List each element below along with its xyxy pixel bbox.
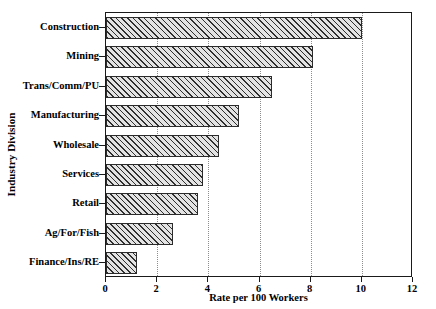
category-label: Finance/Ins/RE bbox=[29, 251, 99, 273]
category-label: Wholesale bbox=[53, 134, 99, 156]
bar bbox=[106, 193, 198, 215]
x-tick bbox=[259, 277, 260, 282]
bar-row bbox=[106, 76, 272, 98]
x-axis-title: Rate per 100 Workers bbox=[105, 292, 412, 303]
bar bbox=[106, 135, 219, 157]
bar-row bbox=[106, 105, 239, 127]
bar bbox=[106, 46, 313, 68]
category-label: Construction bbox=[40, 16, 99, 38]
bar-row bbox=[106, 17, 362, 39]
bar bbox=[106, 17, 362, 39]
x-tick bbox=[361, 277, 362, 282]
category-label: Trans/Comm/PU bbox=[23, 75, 99, 97]
bar-row bbox=[106, 164, 203, 186]
bar bbox=[106, 76, 272, 98]
x-tick bbox=[207, 277, 208, 282]
bar-row bbox=[106, 46, 313, 68]
bar bbox=[106, 105, 239, 127]
bar-row bbox=[106, 252, 137, 274]
category-label: Manufacturing bbox=[31, 104, 99, 126]
bar bbox=[106, 223, 173, 245]
bar bbox=[106, 164, 203, 186]
bar-row bbox=[106, 223, 173, 245]
bar-chart: Industry Division ConstructionMiningTran… bbox=[0, 0, 436, 309]
x-tick bbox=[156, 277, 157, 282]
category-label: Services bbox=[62, 163, 99, 185]
bar bbox=[106, 252, 137, 274]
category-label: Mining bbox=[66, 45, 99, 67]
bar-row bbox=[106, 193, 198, 215]
x-tick bbox=[105, 277, 106, 282]
x-tick bbox=[310, 277, 311, 282]
category-axis-labels: ConstructionMiningTrans/Comm/PUManufactu… bbox=[0, 12, 105, 277]
plot-area bbox=[105, 12, 412, 277]
category-label: Retail bbox=[72, 192, 99, 214]
bars-layer bbox=[106, 13, 411, 276]
x-tick bbox=[412, 277, 413, 282]
bar-row bbox=[106, 135, 219, 157]
category-label: Ag/For/Fish bbox=[45, 222, 99, 244]
